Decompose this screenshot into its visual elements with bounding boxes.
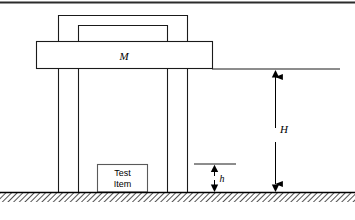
test-item-label-line2: Item xyxy=(114,179,132,189)
ground-hatch xyxy=(0,193,355,202)
test-item-label-line1: Test xyxy=(114,168,131,178)
anvil-clearance-label: h xyxy=(220,173,225,184)
drop-height-label: H xyxy=(279,123,289,135)
dimension-arrow-H xyxy=(272,70,279,192)
ground-hatched-baseline xyxy=(0,193,355,203)
hammer-mass-label: M xyxy=(118,50,129,62)
figure-container: M H h Test Item xyxy=(0,0,355,220)
schematic-canvas: M H h Test Item xyxy=(0,0,355,220)
dimension-arrow-h xyxy=(211,165,218,192)
